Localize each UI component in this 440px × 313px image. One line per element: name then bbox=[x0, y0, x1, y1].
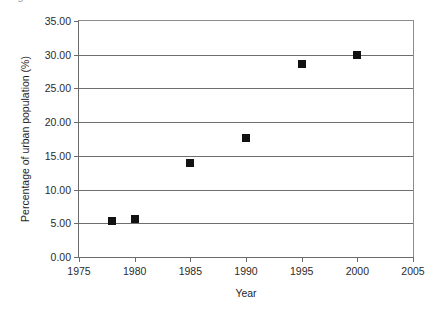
x-axis-tick bbox=[135, 257, 136, 262]
x-axis-tick bbox=[302, 257, 303, 262]
y-axis-tick-label: 20.00 bbox=[45, 116, 71, 128]
clipped-title-strip: Figure: Urbanization trend bbox=[0, 0, 440, 7]
x-axis-tick bbox=[79, 257, 80, 262]
x-axis-tick-label: 1990 bbox=[234, 265, 257, 277]
y-axis-tick bbox=[74, 190, 79, 191]
data-point-marker bbox=[186, 159, 194, 167]
x-axis-title: Year bbox=[78, 287, 414, 299]
chart-figure: Figure: Urbanization trend Percentage of… bbox=[0, 0, 440, 313]
y-axis-tick-label: 25.00 bbox=[45, 82, 71, 94]
clipped-title-text: Figure: Urbanization trend bbox=[8, 0, 140, 2]
y-gridline bbox=[79, 88, 413, 89]
y-axis-tick-label: 10.00 bbox=[45, 184, 71, 196]
x-axis-tick bbox=[190, 257, 191, 262]
y-gridline bbox=[79, 55, 413, 56]
y-axis-tick bbox=[74, 156, 79, 157]
x-axis-tick-label: 2005 bbox=[401, 265, 424, 277]
data-point-marker bbox=[353, 51, 361, 59]
y-axis-tick-label: 35.00 bbox=[45, 15, 71, 27]
y-axis-title-text: Percentage of urban population (%) bbox=[19, 56, 31, 222]
data-point-marker bbox=[108, 217, 116, 225]
y-axis-tick-label: 0.00 bbox=[51, 251, 71, 263]
data-point-marker bbox=[131, 215, 139, 223]
data-point-marker bbox=[242, 134, 250, 142]
data-point-marker bbox=[298, 60, 306, 68]
y-axis-tick bbox=[74, 55, 79, 56]
y-gridline bbox=[79, 122, 413, 123]
y-gridline bbox=[79, 223, 413, 224]
x-axis-tick-label: 2000 bbox=[346, 265, 369, 277]
x-axis-tick-label: 1980 bbox=[123, 265, 146, 277]
y-axis-tick-label: 5.00 bbox=[51, 217, 71, 229]
y-axis-tick bbox=[74, 122, 79, 123]
x-axis-tick bbox=[357, 257, 358, 262]
y-axis-tick-label: 30.00 bbox=[45, 49, 71, 61]
y-gridline bbox=[79, 156, 413, 157]
x-axis-tick-label: 1985 bbox=[179, 265, 202, 277]
y-axis-tick bbox=[74, 223, 79, 224]
y-axis-tick bbox=[74, 88, 79, 89]
x-axis-tick-label: 1975 bbox=[67, 265, 90, 277]
x-axis-title-text: Year bbox=[235, 287, 256, 299]
plot-area: 0.005.0010.0015.0020.0025.0030.0035.0019… bbox=[78, 20, 414, 258]
x-axis-tick-label: 1995 bbox=[290, 265, 313, 277]
y-gridline bbox=[79, 190, 413, 191]
y-axis-title: Percentage of urban population (%) bbox=[18, 20, 32, 258]
x-axis-tick bbox=[246, 257, 247, 262]
x-axis-tick bbox=[413, 257, 414, 262]
y-axis-tick bbox=[74, 21, 79, 22]
y-axis-tick-label: 15.00 bbox=[45, 150, 71, 162]
